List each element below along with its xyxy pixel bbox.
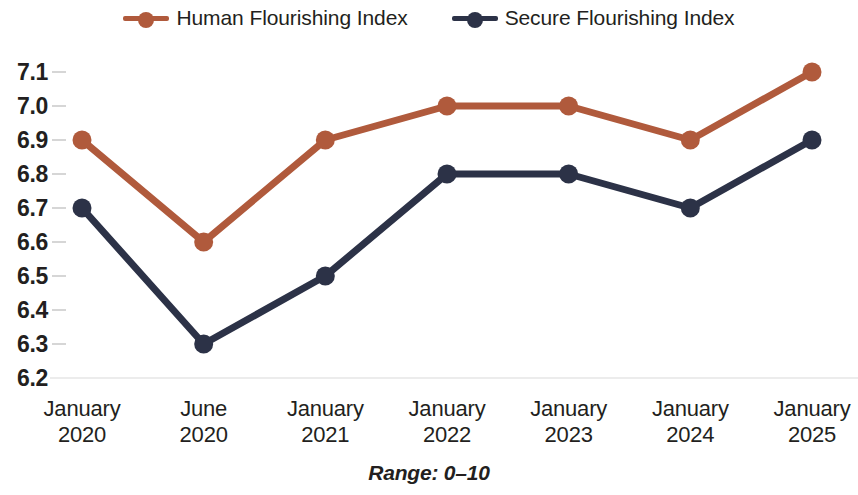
data-point-marker[interactable]: Human Flourishing Index – January 2022: … bbox=[438, 97, 457, 116]
range-footnote: Range: 0–10 bbox=[0, 461, 858, 485]
data-point-marker[interactable]: Secure Flourishing Index – January 2023:… bbox=[559, 165, 578, 184]
x-axis-tick-label: January2021 bbox=[287, 396, 364, 448]
x-axis-tick-label: January2022 bbox=[409, 396, 486, 448]
x-axis-tick-label: June2020 bbox=[180, 396, 228, 448]
data-point-marker[interactable]: Secure Flourishing Index – January 2024:… bbox=[681, 199, 700, 218]
data-point-marker[interactable]: Human Flourishing Index – January 2025: … bbox=[803, 63, 822, 82]
x-axis-tick-label: January2024 bbox=[652, 396, 729, 448]
data-point-marker[interactable]: Secure Flourishing Index – January 2021:… bbox=[316, 267, 335, 286]
x-axis-tick-label: January2020 bbox=[44, 396, 121, 448]
data-point-marker[interactable]: Secure Flourishing Index – January 2020:… bbox=[73, 199, 92, 218]
data-point-marker[interactable]: Human Flourishing Index – January 2024: … bbox=[681, 131, 700, 150]
x-axis-tick-label: January2025 bbox=[774, 396, 851, 448]
data-point-marker[interactable]: Human Flourishing Index – January 2021: … bbox=[316, 131, 335, 150]
data-point-marker[interactable]: Human Flourishing Index – January 2020: … bbox=[73, 131, 92, 150]
data-point-marker[interactable]: Secure Flourishing Index – June 2020: 6.… bbox=[194, 335, 213, 354]
data-point-marker[interactable]: Human Flourishing Index – January 2023: … bbox=[559, 97, 578, 116]
data-point-marker[interactable]: Secure Flourishing Index – January 2022:… bbox=[438, 165, 457, 184]
flourishing-index-line-chart: Human Flourishing Index Secure Flourishi… bbox=[0, 0, 858, 495]
data-point-marker[interactable]: Human Flourishing Index – June 2020: 6.6 bbox=[194, 233, 213, 252]
data-point-marker[interactable]: Secure Flourishing Index – January 2025:… bbox=[803, 131, 822, 150]
x-axis-tick-label: January2023 bbox=[530, 396, 607, 448]
